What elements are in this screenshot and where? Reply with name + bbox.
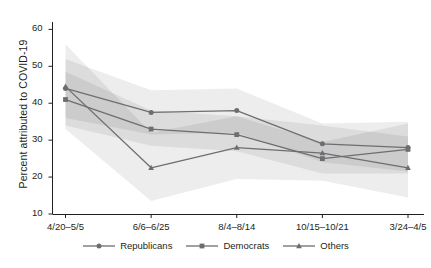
legend-item-others: Others bbox=[282, 240, 349, 251]
legend-item-democrats: Democrats bbox=[185, 240, 269, 251]
y-axis-ticks bbox=[49, 29, 53, 214]
legend-label: Democrats bbox=[223, 240, 269, 251]
triangle-marker-icon bbox=[282, 241, 316, 251]
data-point-republicans-3 bbox=[320, 141, 325, 146]
data-point-democrats-0 bbox=[63, 97, 68, 102]
data-point-republicans-1 bbox=[149, 110, 154, 115]
legend-label: Republicans bbox=[120, 240, 172, 251]
x-tick-label-2: 8/4–8/14 bbox=[218, 221, 255, 232]
y-tick-label-60: 60 bbox=[17, 22, 43, 33]
data-point-democrats-2 bbox=[234, 132, 239, 137]
x-tick-label-3: 10/15–10/21 bbox=[296, 221, 349, 232]
legend-item-republicans: Republicans bbox=[82, 240, 172, 251]
square-marker-icon bbox=[185, 241, 219, 251]
y-tick-label-50: 50 bbox=[17, 59, 43, 70]
data-point-republicans-2 bbox=[234, 108, 239, 113]
chart-container: Percent attributed to COVID-19 102030405… bbox=[0, 0, 431, 268]
x-tick-label-1: 6/6–6/25 bbox=[133, 221, 170, 232]
data-point-democrats-1 bbox=[149, 127, 154, 132]
data-point-democrats-3 bbox=[320, 156, 325, 161]
data-point-democrats-4 bbox=[406, 147, 411, 152]
x-tick-label-4: 3/24–4/5 bbox=[390, 221, 427, 232]
y-tick-label-40: 40 bbox=[17, 96, 43, 107]
chart-legend: RepublicansDemocratsOthers bbox=[0, 240, 431, 251]
x-tick-label-0: 4/20–5/5 bbox=[47, 221, 84, 232]
y-tick-label-20: 20 bbox=[17, 170, 43, 181]
circle-marker-icon bbox=[82, 241, 116, 251]
y-tick-label-30: 30 bbox=[17, 133, 43, 144]
confidence-band-others bbox=[66, 44, 409, 201]
y-tick-label-10: 10 bbox=[17, 207, 43, 218]
confidence-bands-layer bbox=[66, 44, 409, 201]
legend-label: Others bbox=[320, 240, 349, 251]
